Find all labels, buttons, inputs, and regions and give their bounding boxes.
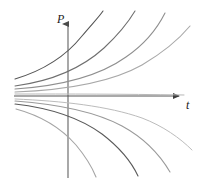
solution-curve (15, 13, 165, 89)
solution-curve (15, 94, 184, 95)
solution-curves-group (15, 11, 192, 177)
axes-group (14, 24, 179, 178)
solution-curve (15, 99, 192, 150)
figure-container: P t (0, 0, 199, 187)
t-axis-label: t (186, 99, 189, 111)
solution-curve (16, 109, 96, 177)
solution-curve (15, 11, 135, 86)
solution-curve (15, 26, 190, 92)
solution-curve (15, 101, 170, 172)
plot-canvas (0, 0, 199, 187)
p-axis-label: P (57, 13, 64, 25)
